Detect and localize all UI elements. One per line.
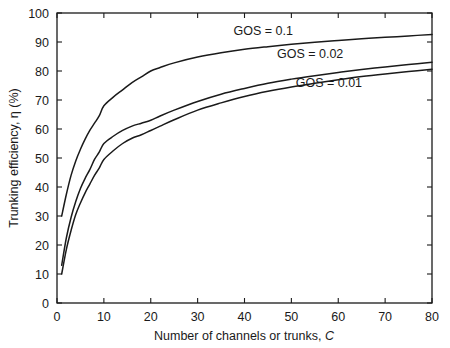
curve-2 xyxy=(62,69,432,274)
x-tick-label: 20 xyxy=(144,310,158,324)
x-tick-label: 80 xyxy=(425,310,439,324)
x-tick-label: 50 xyxy=(284,310,298,324)
y-tick-label: 50 xyxy=(35,152,49,166)
curve-1 xyxy=(62,62,432,265)
y-tick-label: 30 xyxy=(35,210,49,224)
x-axis-title: Number of channels or trunks, C xyxy=(154,329,335,343)
y-tick-label: 90 xyxy=(35,36,49,50)
x-axis-title-symbol: C xyxy=(325,329,335,343)
y-axis-ticks: 0102030405060708090100 xyxy=(28,7,432,311)
x-tick-label: 40 xyxy=(238,310,252,324)
y-axis-title: Trunking efficiency, η (%) xyxy=(7,88,21,227)
x-tick-label: 0 xyxy=(54,310,61,324)
annotation-0: GOS = 0.1 xyxy=(234,24,293,38)
y-tick-label: 40 xyxy=(35,181,49,195)
x-tick-label: 30 xyxy=(191,310,205,324)
x-tick-label: 60 xyxy=(331,310,345,324)
annotation-2: GOS = 0.01 xyxy=(296,76,362,90)
x-tick-label: 10 xyxy=(97,310,111,324)
x-tick-label: 70 xyxy=(378,310,392,324)
trunking-efficiency-chart: 0102030405060708090100 01020304050607080… xyxy=(0,0,450,348)
curve-0 xyxy=(62,34,432,216)
chart-figure: 0102030405060708090100 01020304050607080… xyxy=(0,0,450,348)
plot-frame xyxy=(57,13,432,303)
y-tick-label: 0 xyxy=(42,297,49,311)
y-tick-label: 100 xyxy=(28,7,49,21)
y-tick-label: 80 xyxy=(35,65,49,79)
data-curves xyxy=(62,34,432,274)
series-annotations: GOS = 0.1GOS = 0.02GOS = 0.01 xyxy=(234,24,363,90)
y-tick-label: 20 xyxy=(35,239,49,253)
y-tick-label: 60 xyxy=(35,123,49,137)
x-axis-ticks: 01020304050607080 xyxy=(54,13,439,324)
annotation-1: GOS = 0.02 xyxy=(277,47,343,61)
x-axis-title-text: Number of channels or trunks, xyxy=(154,329,325,343)
y-tick-label: 10 xyxy=(35,268,49,282)
y-tick-label: 70 xyxy=(35,94,49,108)
